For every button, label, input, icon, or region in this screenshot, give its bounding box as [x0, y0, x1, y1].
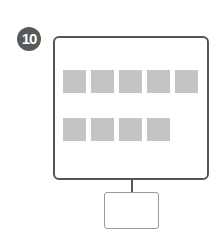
tile-r2-c1 — [63, 118, 86, 141]
tile-r2-c2 — [91, 118, 114, 141]
tile-r2-c3 — [119, 118, 142, 141]
child-box — [104, 192, 159, 229]
tile-r2-c4 — [147, 118, 170, 141]
tile-r1-c3 — [119, 70, 142, 93]
step-number-badge: 10 — [17, 27, 41, 51]
connector-line — [131, 178, 133, 192]
tile-r1-c4 — [147, 70, 170, 93]
parent-container-box — [53, 36, 209, 180]
tile-r1-c1 — [63, 70, 86, 93]
tile-r1-c5 — [175, 70, 198, 93]
tile-r1-c2 — [91, 70, 114, 93]
